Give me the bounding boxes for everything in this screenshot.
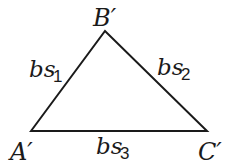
svg-text:bs: bs bbox=[29, 56, 56, 82]
svg-text:bs: bs bbox=[157, 54, 184, 80]
svg-text:2: 2 bbox=[181, 65, 190, 84]
triangle-diagram: B′ A′ C′ bs 1 bs 2 bs 3 bbox=[0, 0, 235, 168]
svg-text:bs: bs bbox=[96, 133, 123, 159]
side-label-ac: bs 3 bbox=[96, 133, 129, 163]
vertex-label-a: A′ bbox=[8, 138, 33, 166]
vertex-label-c: C′ bbox=[198, 138, 222, 166]
side-label-ab: bs 1 bbox=[29, 56, 62, 86]
side-label-bc: bs 2 bbox=[157, 54, 190, 84]
svg-text:3: 3 bbox=[120, 144, 129, 163]
svg-text:1: 1 bbox=[53, 67, 62, 86]
vertex-label-b: B′ bbox=[92, 4, 117, 32]
